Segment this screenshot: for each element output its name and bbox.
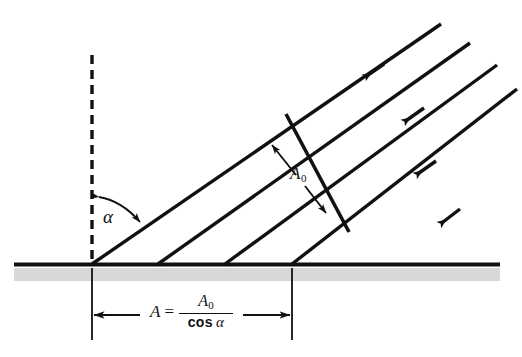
ground-band — [14, 268, 500, 281]
beam-width-label: A0 — [290, 165, 306, 184]
numerator-subscript: 0 — [208, 299, 214, 311]
ray-4-arrowhead — [443, 209, 460, 222]
incident-ray-3 — [225, 65, 497, 264]
diagram-svg — [0, 0, 522, 357]
ray-1-arrowhead — [368, 64, 384, 75]
equation-lhs: A — [150, 303, 160, 320]
incidence-angle-label: α — [103, 207, 113, 226]
incident-ray-2 — [158, 43, 470, 264]
equation-fraction: A0 cosα — [179, 293, 233, 331]
beam-width-symbol: A — [290, 164, 300, 183]
incident-ray-group — [92, 24, 517, 264]
beam-width-arrow-lower — [305, 186, 326, 213]
figure-canvas: α A0 A = A0 cosα — [0, 0, 522, 357]
denominator-angle: α — [216, 314, 224, 330]
equation-denominator: cosα — [182, 314, 231, 331]
denominator-function: cos — [188, 314, 213, 330]
numerator-symbol: A — [198, 292, 208, 309]
incident-ray-4 — [292, 89, 517, 264]
ground-area-equation: A = A0 cosα — [150, 293, 233, 331]
beam-width-subscript: 0 — [301, 172, 307, 184]
equation-numerator: A0 — [192, 293, 219, 313]
equation-equals-sign: = — [164, 303, 174, 320]
